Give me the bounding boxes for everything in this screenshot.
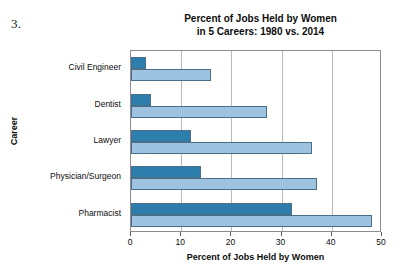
bar-group [131,203,380,227]
x-axis-tick-label: 40 [316,237,346,247]
x-axis-tick [130,232,131,236]
x-axis-tick [381,232,382,236]
bar-1980 [131,130,191,142]
bar-group [131,166,380,190]
y-axis-tick-labels: Civil EngineerDentistLawyerPhysician/Sur… [26,50,126,232]
bar-group [131,57,380,81]
y-axis-tick-label: Dentist [21,99,121,109]
y-axis-tick-label: Physician/Surgeon [21,171,121,181]
x-axis-tick-labels: 01020304050 [130,237,381,249]
x-axis-tick-label: 10 [165,237,195,247]
bars-layer [131,51,380,231]
x-axis-tick-label: 20 [215,237,245,247]
bar-2014 [131,178,317,190]
bar-2014 [131,142,312,154]
y-axis-tick-label: Lawyer [21,135,121,145]
bar-2014 [131,215,372,227]
chart-title-line-1: Percent of Jobs Held by Women [118,12,403,25]
bar-group [131,94,380,118]
bar-1980 [131,203,292,215]
bar-2014 [131,106,267,118]
x-axis-tick-label: 50 [366,237,396,247]
x-axis-title: Percent of Jobs Held by Women [130,252,381,262]
chart-figure: 3. Percent of Jobs Held by Women in 5 Ca… [0,0,411,280]
bar-1980 [131,57,146,69]
x-axis-tick [230,232,231,236]
bar-2014 [131,69,211,81]
x-axis-tick [180,232,181,236]
bar-1980 [131,94,151,106]
chart-title-line-2: in 5 Careers: 1980 vs. 2014 [118,25,403,38]
x-axis-tick-label: 0 [115,237,145,247]
chart-title: Percent of Jobs Held by Women in 5 Caree… [118,12,403,38]
bar-group [131,130,380,154]
x-axis-tick [331,232,332,236]
y-axis-tick-label: Civil Engineer [21,62,121,72]
item-number: 3. [11,16,21,32]
y-axis-tick-label: Pharmacist [21,208,121,218]
y-axis-title: Career [9,101,19,161]
plot-area [130,50,381,232]
x-axis-tick-label: 30 [266,237,296,247]
bar-1980 [131,166,201,178]
x-axis-tick [281,232,282,236]
